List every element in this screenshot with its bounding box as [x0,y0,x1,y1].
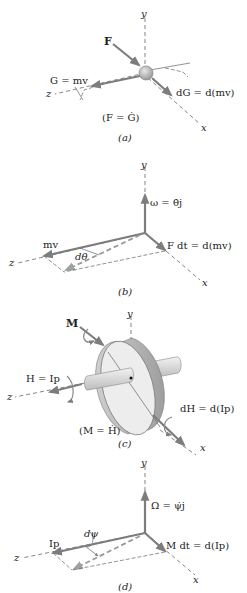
momentum-change-label: dG = d(mv) [176,87,235,98]
impulse-vector [145,533,165,551]
angular-momentum-change-vector [153,415,184,445]
bracket-left [75,87,83,100]
angular-momentum-change-label: dH = d(Ip) [180,403,235,414]
panel-c: y z x M H = Ip dH = d(Ip) (M = Ḣ) (c) [6,308,235,455]
momentum-vector [92,76,140,86]
disk-center [130,377,133,380]
impulse-label: F dt = d(mv) [167,240,232,251]
y-axis-label: y [140,159,147,170]
parallelogram-side-a [53,553,72,570]
impulse-vector [145,233,165,250]
momentum-change-vector [152,78,171,95]
force-vector [113,44,139,65]
panel-d-caption: (d) [118,581,132,592]
tangent-line [150,63,190,70]
angular-momentum-rotation-arrow [67,376,73,402]
x-axis-label: x [200,442,206,453]
angle-label: dψ [84,528,98,539]
panel-b: y z x ω = θ̇j mv dθ F dt = d(mv) (b) [8,159,232,297]
x-axis-label: x [201,122,207,133]
angular-momentum-vector [50,384,82,392]
y-axis-label: y [140,457,147,468]
omega-label: Ω = ψ̇j [151,500,185,511]
momentum-label: mv [43,239,58,250]
particle [139,66,153,80]
z-axis-label: z [8,257,15,268]
angular-momentum-label: Ip [49,538,59,549]
panel-a: y z x F G = mv dG = d(mv) (F = Ġ) (a) [45,8,235,143]
relation-label: (M = Ḣ) [79,425,121,436]
z-axis-label: z [6,391,13,402]
force-label: F [104,35,112,48]
z-axis-label: z [45,88,52,99]
y-axis-label: y [126,308,133,319]
angular-momentum-label: H = Ip [26,373,60,384]
z-axis-label: z [13,552,20,563]
momentum-ghost-right [165,68,188,77]
momentum-vector [44,233,145,256]
panel-d: y z x Ω = ψ̇j Ip dψ M dt = d(Ip) (d) [13,457,229,592]
panel-c-caption: (c) [118,438,132,449]
panel-a-caption: (a) [118,132,132,143]
parallelogram-side-a [44,256,64,272]
x-axis [160,430,196,455]
moment-label: M [66,317,78,330]
x-axis [148,78,200,124]
y-axis-label: y [140,8,147,19]
parallelogram-side-b [72,552,165,570]
panel-b-caption: (b) [118,286,132,297]
x-axis-label: x [193,574,199,585]
angular-momentum-vector [53,533,145,553]
omega-label: ω = θ̇j [150,197,182,208]
relation-label: (F = Ġ) [102,112,140,123]
impulse-label: M dt = d(Ip) [166,540,229,551]
x-axis-label: x [202,277,208,288]
momentum-label: G = mv [50,75,88,86]
figure-canvas: y z x F G = mv dG = d(mv) (F = Ġ) (a) y … [0,0,247,593]
angle-label: dθ [75,251,87,262]
